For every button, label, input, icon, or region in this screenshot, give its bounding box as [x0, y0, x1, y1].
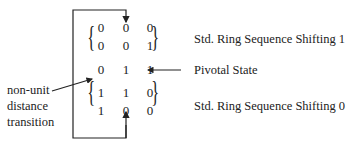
bit-cell: 0 [120, 38, 132, 54]
bit-cell: 0 [120, 20, 132, 36]
bit-cell: 1 [144, 38, 156, 54]
bit-cell: 0 [95, 62, 107, 78]
label-transition-1: non-unit [7, 83, 49, 97]
bit-cell: 0 [144, 20, 156, 36]
bit-cell: 1 [95, 85, 107, 101]
label-transition-3: transition [7, 115, 54, 129]
left-brace-shift0: { [87, 76, 95, 106]
bit-cell: 0 [120, 103, 132, 119]
label-shift0: Std. Ring Sequence Shifting 0 [194, 99, 345, 113]
bit-cell: 1 [95, 103, 107, 119]
label-transition-2: distance [7, 99, 48, 113]
bit-cell: 1 [120, 85, 132, 101]
label-shift1: Std. Ring Sequence Shifting 1 [194, 32, 345, 46]
ring-sequence-diagram: { } { } 0 0 0 0 0 1 0 1 1 1 1 0 1 0 0 St… [0, 0, 360, 146]
bit-cell: 1 [120, 62, 132, 78]
label-pivot: Pivotal State [194, 63, 258, 77]
bit-cell: 1 [144, 62, 156, 78]
bit-cell: 0 [144, 85, 156, 101]
bit-cell: 0 [95, 20, 107, 36]
transition-arrow [52, 79, 92, 91]
bit-cell: 0 [95, 38, 107, 54]
bit-cell: 0 [144, 103, 156, 119]
left-brace-shift1: { [87, 21, 95, 51]
